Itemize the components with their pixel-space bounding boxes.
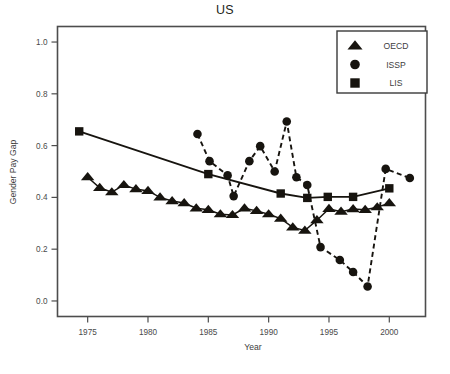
square-icon: [75, 127, 83, 135]
x-tick-label: 1985: [199, 328, 218, 337]
circle-icon: [229, 192, 238, 201]
series-issp: [193, 117, 414, 291]
square-icon: [324, 193, 332, 201]
y-axis-title: Gender Pay Gap: [8, 140, 18, 205]
triangle-icon: [322, 204, 336, 212]
y-tick-label: 0.8: [36, 90, 48, 99]
square-icon: [349, 193, 357, 201]
triangle-icon: [346, 204, 360, 212]
x-tick-label: 1995: [320, 328, 339, 337]
square-icon: [204, 170, 212, 178]
legend-label-lis: LIS: [390, 78, 403, 88]
x-tick-label: 2000: [380, 328, 399, 337]
x-axis-ticks: 197519801985199019952000: [79, 317, 399, 337]
square-icon: [277, 189, 285, 197]
series-lis: [75, 127, 393, 202]
y-tick-label: 0.0: [36, 297, 48, 306]
circle-icon: [205, 157, 214, 166]
circle-icon: [363, 282, 372, 291]
y-tick-label: 0.4: [36, 193, 48, 202]
circle-icon: [245, 157, 254, 166]
triangle-icon: [81, 172, 95, 180]
triangle-icon: [238, 203, 252, 211]
triangle-icon: [383, 198, 397, 206]
square-icon: [350, 78, 359, 87]
circle-icon: [256, 142, 265, 151]
circle-icon: [381, 165, 390, 174]
circle-icon: [336, 256, 345, 265]
circle-icon: [292, 173, 301, 182]
chart-figure: US 0.00.20.40.60.81.0 197519801985199019…: [0, 0, 450, 374]
x-tick-label: 1990: [260, 328, 279, 337]
square-icon: [385, 184, 393, 192]
series-layer: [75, 117, 414, 291]
circle-icon: [350, 60, 360, 70]
triangle-icon: [117, 180, 131, 188]
circle-icon: [303, 181, 312, 190]
legend-label-issp: ISSP: [386, 60, 406, 70]
circle-icon: [316, 243, 325, 252]
y-tick-label: 1.0: [36, 38, 48, 47]
y-axis-ticks: 0.00.20.40.60.81.0: [36, 38, 57, 306]
chart-legend: OECDISSPLIS: [337, 31, 427, 93]
triangle-icon: [153, 192, 167, 200]
triangle-icon: [190, 203, 204, 211]
plot-area: 0.00.20.40.60.81.0 197519801985199019952…: [0, 0, 450, 374]
circle-icon: [406, 174, 415, 183]
circle-icon: [349, 268, 358, 277]
x-axis-title: Year: [244, 342, 262, 352]
legend-label-oecd: OECD: [384, 41, 409, 51]
circle-icon: [270, 167, 279, 176]
x-tick-label: 1980: [139, 328, 158, 337]
circle-icon: [193, 130, 202, 139]
circle-icon: [282, 117, 291, 126]
square-icon: [303, 194, 311, 202]
x-tick-label: 1975: [79, 328, 98, 337]
y-tick-label: 0.6: [36, 142, 48, 151]
y-tick-label: 0.2: [36, 245, 48, 254]
